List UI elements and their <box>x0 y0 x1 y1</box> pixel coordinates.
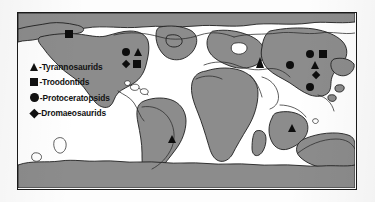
map-marker-square <box>319 50 327 58</box>
map-marker-triangle <box>311 61 319 69</box>
island-caribbean-1 <box>130 84 139 90</box>
map-marker-square <box>133 60 141 68</box>
legend-item-troodontids: -Troodontids <box>30 75 110 91</box>
land-greenland <box>156 26 197 60</box>
square-marker-icon <box>30 78 38 86</box>
legend-label-protoceratopsids: -Protoceratopsids <box>40 94 110 102</box>
land-australia <box>297 133 355 171</box>
diamond-marker-icon <box>30 109 39 118</box>
island-atlantic-south-1 <box>54 138 66 154</box>
figure-page: -Tyrannosaurids -Troodontids -Protocerat… <box>0 0 375 202</box>
legend-item-protoceratopsids: -Protoceratopsids <box>30 90 110 106</box>
legend-item-dromaeosaurids: -Dromaeosaurids <box>30 106 110 122</box>
map-marker-square <box>65 30 73 38</box>
island-atlantic-south-2 <box>32 153 42 161</box>
map-marker-triangle <box>134 48 142 56</box>
map-marker-triangle <box>256 57 264 68</box>
coastline-arabia <box>262 77 279 109</box>
legend: -Tyrannosaurids -Troodontids -Protocerat… <box>30 59 110 121</box>
map-frame: -Tyrannosaurids -Troodontids -Protocerat… <box>17 12 357 190</box>
land-antarctica <box>18 160 355 188</box>
map-marker-triangle <box>288 124 296 132</box>
map-marker-triangle <box>168 135 176 143</box>
island-pacific-1 <box>313 119 319 124</box>
land-europe-inner-sea <box>231 43 247 54</box>
island-caribbean-3 <box>125 81 131 86</box>
land-africa <box>191 68 258 161</box>
legend-label-tyrannosaurids: -Tyrannosaurids <box>39 63 103 71</box>
circle-marker-icon <box>30 93 39 102</box>
triangle-marker-icon <box>30 63 38 71</box>
legend-item-tyrannosaurids: -Tyrannosaurids <box>30 59 110 75</box>
legend-label-dromaeosaurids: -Dromaeosaurids <box>39 109 106 117</box>
island-caribbean-2 <box>140 89 148 95</box>
legend-label-troodontids: -Troodontids <box>39 78 89 86</box>
land-madagascar <box>252 130 266 155</box>
